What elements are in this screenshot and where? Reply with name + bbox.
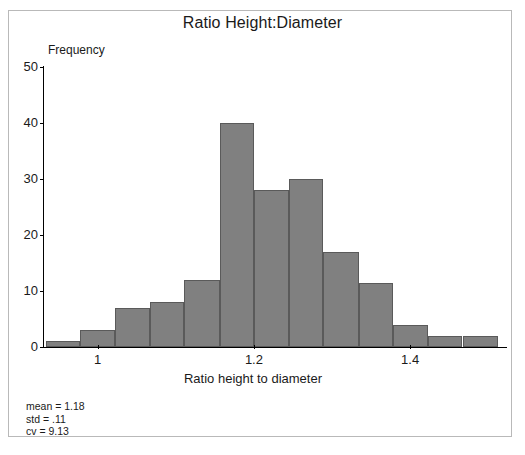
y-tick-mark — [40, 123, 44, 124]
histogram-bar — [323, 252, 358, 347]
histogram-bar — [463, 336, 498, 347]
x-tick-label: 1.2 — [245, 352, 263, 367]
y-tick-label: 50 — [4, 59, 38, 74]
stats-annotation: mean = 1.18 std = .11 cv = 9.13 — [26, 400, 85, 438]
histogram-bar — [359, 283, 393, 347]
y-tick-label: 0 — [4, 339, 38, 354]
histogram-bar — [254, 190, 289, 347]
histogram-bar — [150, 302, 184, 347]
histogram-bar — [428, 336, 462, 347]
x-tick-label: 1 — [94, 352, 101, 367]
x-tick-label: 1.4 — [401, 352, 419, 367]
y-axis-label: Frequency — [48, 43, 105, 57]
chart-title: Ratio Height:Diameter — [0, 14, 525, 32]
stat-std: std = .11 — [26, 413, 85, 426]
y-tick-label: 10 — [4, 283, 38, 298]
histogram-bar — [220, 123, 254, 347]
y-tick-label: 30 — [4, 171, 38, 186]
x-tick-mark — [98, 345, 99, 349]
x-tick-mark — [410, 345, 411, 349]
histogram-figure: Ratio Height:Diameter Frequency 01020304… — [0, 0, 525, 455]
y-tick-mark — [40, 291, 44, 292]
stat-mean: mean = 1.18 — [26, 400, 85, 413]
x-tick-mark — [254, 345, 255, 349]
y-tick-mark — [40, 67, 44, 68]
y-tick-label: 40 — [4, 115, 38, 130]
x-axis-label: Ratio height to diameter — [43, 371, 463, 386]
y-tick-mark — [40, 235, 44, 236]
y-tick-mark — [40, 179, 44, 180]
histogram-bar — [115, 308, 150, 347]
histogram-bar — [289, 179, 323, 347]
histogram-bar — [393, 325, 428, 347]
y-tick-mark — [40, 347, 44, 348]
histogram-bar — [46, 341, 80, 347]
y-axis-ticks: 01020304050 — [0, 0, 38, 455]
stat-cv: cv = 9.13 — [26, 425, 85, 438]
plot-area — [43, 68, 500, 348]
histogram-bar — [184, 280, 219, 347]
y-tick-label: 20 — [4, 227, 38, 242]
